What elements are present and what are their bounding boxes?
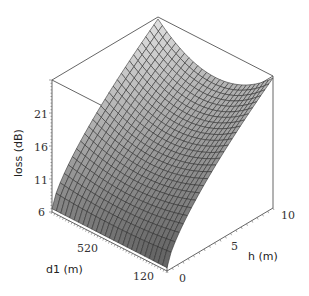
z-tick-6: 6 <box>38 206 45 219</box>
z-tick-11: 11 <box>34 174 48 187</box>
h-tick-10: 10 <box>281 209 295 222</box>
h-tick-0: 0 <box>179 272 186 285</box>
z-axis-title: loss (dB) <box>12 129 25 177</box>
loss-surface <box>52 19 273 268</box>
h-axis-title: h (m) <box>248 250 278 263</box>
z-tick-21: 21 <box>34 108 48 121</box>
surface-plot: 21 16 11 6 loss (dB) 520 120 d1 (m) 0 5 … <box>0 0 309 296</box>
h-tick-5: 5 <box>231 240 238 253</box>
d1-axis-title: d1 (m) <box>46 263 83 276</box>
d1-tick-520: 520 <box>77 242 98 255</box>
d1-tick-120: 120 <box>133 270 154 283</box>
z-tick-16: 16 <box>34 141 48 154</box>
